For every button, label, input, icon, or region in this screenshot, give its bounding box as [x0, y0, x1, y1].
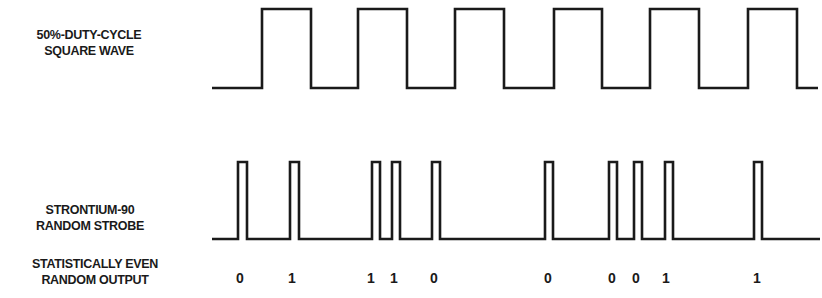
output-bit: 1	[282, 270, 302, 286]
output-bit: 0	[424, 270, 444, 286]
output-bit: 0	[230, 270, 250, 286]
output-bit: 1	[656, 270, 676, 286]
output-bit: 1	[384, 270, 404, 286]
output-bit: 0	[602, 270, 622, 286]
output-bit: 1	[747, 270, 767, 286]
square-wave-trace	[212, 9, 818, 88]
output-bit: 0	[538, 270, 558, 286]
strobe-trace	[212, 162, 820, 239]
output-bit: 0	[626, 270, 646, 286]
waveform-canvas	[0, 0, 822, 298]
output-bit: 1	[361, 270, 381, 286]
